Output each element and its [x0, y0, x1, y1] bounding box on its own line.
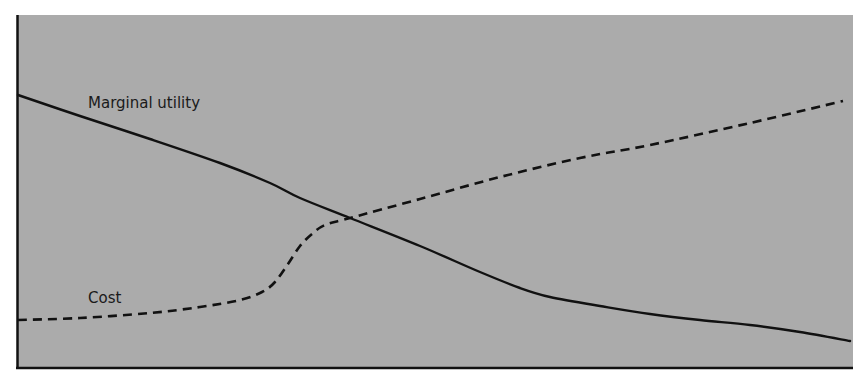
cost-label: Cost — [88, 289, 121, 307]
plot-background — [17, 15, 853, 368]
chart: Marginal utility Cost — [0, 0, 865, 386]
chart-svg: Marginal utility Cost — [0, 0, 865, 386]
marginal-utility-label: Marginal utility — [88, 94, 200, 112]
